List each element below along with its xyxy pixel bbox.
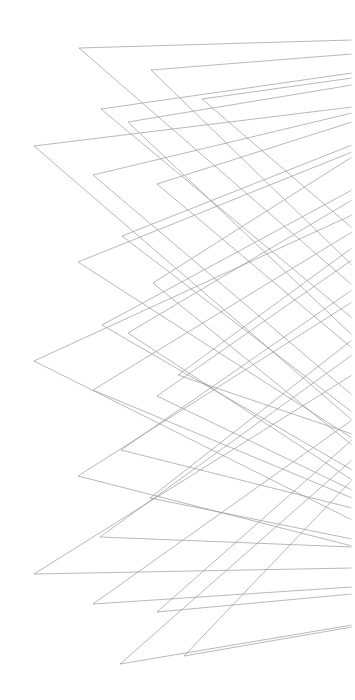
chevron-line [128, 85, 352, 335]
chevron-line [120, 460, 352, 664]
chevron-line [184, 480, 352, 656]
chevron-line [79, 40, 352, 285]
chevron-line [128, 200, 352, 480]
chevron-line [157, 122, 352, 348]
chevron-line [93, 420, 352, 604]
abstract-line-art [0, 0, 355, 700]
chevron-line [178, 248, 352, 434]
chevron-line [34, 375, 352, 574]
chevron-line [100, 355, 352, 547]
chevron-line [34, 107, 352, 420]
chevron-line [151, 54, 352, 265]
chevron-line [121, 290, 352, 508]
chevron-line [153, 157, 352, 445]
right-edge-fade [349, 0, 355, 700]
chevron-line [78, 152, 352, 438]
chevron-line [157, 440, 352, 612]
chevron-line [93, 232, 352, 498]
chevron-line [93, 113, 352, 395]
chevron-line [202, 78, 352, 228]
chevron-line [150, 340, 352, 539]
